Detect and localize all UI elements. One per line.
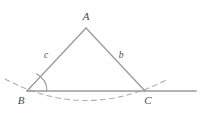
angle-arc-at-b xyxy=(37,74,48,91)
triangle-side-b-line xyxy=(86,28,145,91)
vertex-label-c: C xyxy=(144,94,152,106)
diagram-canvas: A B C c b xyxy=(0,0,200,116)
vertex-label-a: A xyxy=(82,10,90,22)
side-label-b: b xyxy=(119,50,124,60)
triangle-diagram-figure: A B C c b xyxy=(0,0,200,116)
triangle-side-c-line xyxy=(27,28,86,91)
vertex-label-b: B xyxy=(18,94,25,106)
side-label-c: c xyxy=(44,50,49,60)
